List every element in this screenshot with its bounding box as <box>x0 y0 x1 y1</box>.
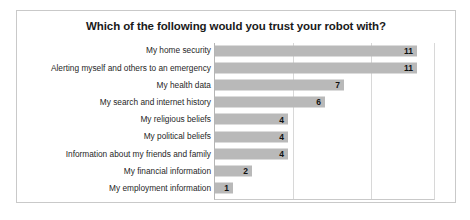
chart-container: Which of the following would you trust y… <box>16 10 456 203</box>
chart-title: Which of the following would you trust y… <box>17 20 455 32</box>
bar-wrapper: 1 <box>215 183 233 194</box>
category-label: My financial information <box>0 167 211 175</box>
bar-row: My financial information 2 <box>17 162 455 179</box>
category-label: Alerting myself and others to an emergen… <box>0 64 211 72</box>
bar-wrapper: 4 <box>215 114 288 125</box>
bar-value-label: 7 <box>335 81 344 90</box>
bar-value-label: 4 <box>279 149 288 158</box>
bar-wrapper: 11 <box>215 45 417 56</box>
bar-row: My home security 11 <box>17 42 455 59</box>
bar-value-label: 4 <box>279 115 288 124</box>
bar-row: My religious beliefs 4 <box>17 111 455 128</box>
bar-row: My employment information 1 <box>17 180 455 197</box>
bar-value-label: 4 <box>279 132 288 141</box>
bar-wrapper: 11 <box>215 62 417 73</box>
bar-row: My search and internet history 6 <box>17 94 455 111</box>
category-label: Information about my friends and family <box>0 150 211 158</box>
bar-row: Alerting myself and others to an emergen… <box>17 59 455 76</box>
bar-value-label: 1 <box>224 184 233 193</box>
bar-value-label: 2 <box>243 167 252 176</box>
bar[interactable]: 1 <box>215 183 233 194</box>
bar-wrapper: 4 <box>215 131 288 142</box>
bar[interactable]: 7 <box>215 79 344 90</box>
bar[interactable]: 4 <box>215 148 288 159</box>
bar-value-label: 6 <box>316 98 325 107</box>
category-label: My health data <box>0 81 211 89</box>
bar-value-label: 11 <box>404 64 417 73</box>
bar-value-label: 11 <box>404 46 417 55</box>
bar-wrapper: 2 <box>215 165 252 176</box>
bar-wrapper: 4 <box>215 148 288 159</box>
bar-wrapper: 7 <box>215 79 344 90</box>
category-label: My employment information <box>0 184 211 192</box>
bar-rows: My home security 11 Alerting myself and … <box>17 42 455 200</box>
category-label: My home security <box>0 46 211 54</box>
bar[interactable]: 4 <box>215 131 288 142</box>
category-label: My search and internet history <box>0 98 211 106</box>
bar[interactable]: 2 <box>215 165 252 176</box>
bar-row: Information about my friends and family … <box>17 145 455 162</box>
bar[interactable]: 6 <box>215 97 325 108</box>
bar[interactable]: 11 <box>215 62 417 73</box>
bar-wrapper: 6 <box>215 97 325 108</box>
bar[interactable]: 11 <box>215 45 417 56</box>
bar-row: My political beliefs 4 <box>17 128 455 145</box>
category-label: My political beliefs <box>0 132 211 140</box>
bar-row: My health data 7 <box>17 76 455 93</box>
category-label: My religious beliefs <box>0 115 211 123</box>
bar[interactable]: 4 <box>215 114 288 125</box>
